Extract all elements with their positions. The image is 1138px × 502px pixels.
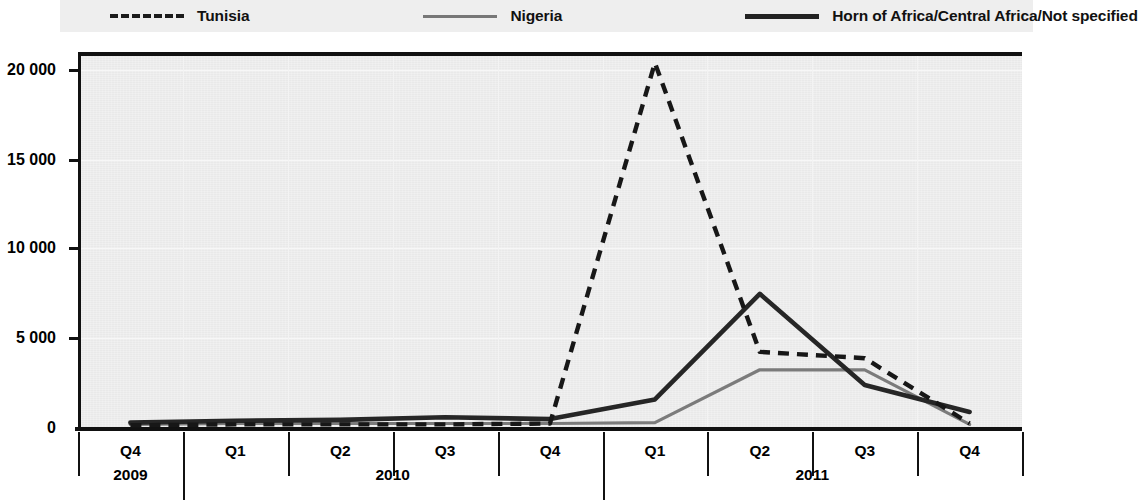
x-tick-label-q1-2011: Q1 <box>603 442 708 460</box>
y-tick-mark-20000 <box>69 69 78 72</box>
y-tick-label-5000: 5 000 <box>16 329 56 347</box>
x-tick-label-q4-2011: Q4 <box>917 442 1022 460</box>
x-tick-label-q4-2010: Q4 <box>498 442 603 460</box>
legend-label-horn-of-africa: Horn of Africa/Central Africa/Not specif… <box>832 8 1137 24</box>
y-tick-label-0: 0 <box>47 419 56 437</box>
dashed-line-icon <box>110 14 184 18</box>
thick-line-icon <box>745 14 819 19</box>
y-tick-mark-10000 <box>69 247 78 250</box>
legend-label-nigeria: Nigeria <box>510 8 562 24</box>
y-tick-label-10000: 10 000 <box>7 239 56 257</box>
legend-item-tunisia: Tunisia <box>110 0 249 32</box>
x-tick-label-q4-2009: Q4 <box>78 442 183 460</box>
y-tick-mark-5000 <box>69 337 78 340</box>
year-label-2011: 2011 <box>603 466 1023 484</box>
x-tick-label-q3-2010: Q3 <box>393 442 498 460</box>
x-axis: Q4 Q1 Q2 Q3 Q4 Q1 Q2 Q3 <box>78 432 1022 502</box>
year-label-2010: 2010 <box>183 466 603 484</box>
plot-area <box>78 52 1022 428</box>
legend-item-nigeria: Nigeria <box>423 0 562 32</box>
thin-line-icon <box>423 15 497 18</box>
x-tick-label-q1-2010: Q1 <box>183 442 288 460</box>
year-label-2009: 2009 <box>78 466 183 484</box>
series-lines <box>78 52 1022 428</box>
x-tick-label-q2-2010: Q2 <box>288 442 393 460</box>
y-tick-mark-15000 <box>69 159 78 162</box>
y-tick-label-15000: 15 000 <box>7 151 56 169</box>
chart-legend: Tunisia Nigeria Horn of Africa/Central A… <box>60 0 1033 32</box>
legend-item-horn-of-africa: Horn of Africa/Central Africa/Not specif… <box>745 0 1137 32</box>
legend-label-tunisia: Tunisia <box>197 8 249 24</box>
x-tick-label-q2-2011: Q2 <box>707 442 812 460</box>
x-divider-end <box>1022 432 1024 476</box>
y-axis: 20 000 15 000 10 000 5 000 0 <box>0 0 78 502</box>
x-tick-label-q3-2011: Q3 <box>812 442 917 460</box>
y-tick-label-20000: 20 000 <box>7 61 56 79</box>
